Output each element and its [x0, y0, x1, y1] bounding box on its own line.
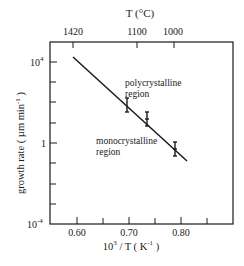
x-axis-title: 103 / T ( K-1 ): [103, 239, 160, 253]
x-tick-label-070: 0.70: [120, 227, 138, 238]
top-axis-title: T (°C): [126, 7, 155, 20]
annotation-polycrystalline: polycrystalline: [125, 78, 181, 88]
x-axis-ticks: [77, 217, 207, 224]
top-tick-label-1420: 1420: [63, 26, 83, 37]
top-tick-label-1100: 1100: [127, 26, 147, 37]
x-tick-label-060: 0.60: [68, 227, 86, 238]
y-tick-label-1em4: 10-4: [27, 217, 43, 230]
data-points: [125, 98, 177, 156]
y-tick-label-1e4: 104: [30, 55, 44, 68]
x-tick-label-080: 0.80: [172, 227, 190, 238]
top-tick-label-1000: 1000: [163, 26, 183, 37]
data-point-3: [173, 142, 177, 156]
annotation-monocrystalline: monocrystalline: [96, 136, 157, 146]
y-axis-ticks: [50, 62, 57, 204]
plot-frame: [50, 42, 233, 224]
y-tick-label-1: 1: [41, 138, 46, 149]
annotation-polycrystalline-region: region: [125, 89, 150, 99]
annotation-monocrystalline-region: region: [96, 147, 121, 157]
growth-rate-chart: T (°C) 1420 1100 1000 104 1 10-4 growth …: [0, 0, 244, 266]
top-axis-ticks: [73, 42, 174, 48]
y-axis-title: growth rate ( µm min-1 ): [14, 92, 27, 195]
